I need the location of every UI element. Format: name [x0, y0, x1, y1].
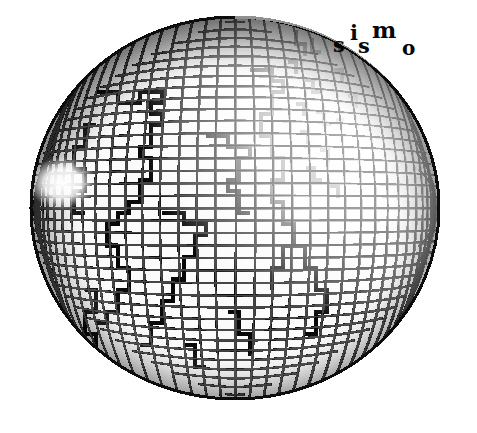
wordmark-letter-o: o [402, 38, 415, 58]
wordmark-letter-s1: s [333, 34, 345, 55]
wordmark-letter-s2: s [358, 35, 370, 56]
wordmark: s i s m o [325, 8, 465, 68]
wordmark-letter-i: i [350, 22, 358, 43]
left-limb-notch [28, 157, 96, 209]
wordmark-letter-m: m [372, 18, 396, 41]
logo-canvas: s i s m o [0, 0, 477, 433]
